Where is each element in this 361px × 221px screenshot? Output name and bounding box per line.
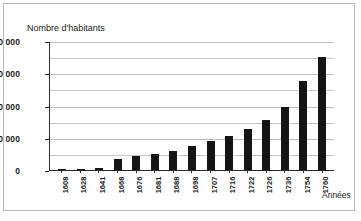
x-label-slot: 1726: [257, 173, 276, 211]
x-axis-tick-labels: 1608162816411668167616811688169817071716…: [49, 173, 334, 211]
x-axis-tick: [136, 169, 137, 173]
x-axis-tick-label: 1628: [79, 177, 88, 194]
x-axis-tick: [173, 169, 174, 173]
y-axis-tick-label: 60 000: [0, 69, 20, 79]
bar[interactable]: [188, 146, 196, 170]
x-axis-tick-label: 1688: [172, 177, 181, 194]
x-axis-tick-label: 1676: [135, 177, 144, 194]
y-axis-tick-label: 0: [0, 166, 20, 176]
x-axis-tick: [117, 169, 118, 173]
x-axis-title: Années: [322, 190, 351, 200]
x-label-slot: 1681: [145, 173, 164, 211]
x-axis-tick-label: 1681: [154, 177, 163, 194]
x-axis-tick-label: 1608: [61, 177, 70, 194]
bar[interactable]: [281, 107, 289, 170]
x-label-slot: 1641: [89, 173, 108, 211]
x-label-slot: 1736: [275, 173, 294, 211]
x-axis-tick-label: 1722: [247, 177, 256, 194]
chart-frame: Nombre d'habitants 020 00040 00060 00080…: [3, 3, 355, 211]
x-axis-tick-label: 1698: [191, 177, 200, 194]
y-axis-title: Nombre d'habitants: [27, 23, 105, 33]
x-label-slot: 1668: [108, 173, 127, 211]
x-label-slot: 1716: [219, 173, 238, 211]
x-axis-tick: [154, 169, 155, 173]
x-axis-tick: [303, 169, 304, 173]
bar-slot: [312, 42, 331, 170]
x-label-slot: 1722: [238, 173, 257, 211]
y-axis-tick-label: 20 000: [0, 134, 20, 144]
bar[interactable]: [169, 151, 177, 170]
bar-slot: [275, 42, 294, 170]
x-label-slot: 1754: [294, 173, 313, 211]
bar[interactable]: [207, 141, 215, 170]
bar-slot: [257, 42, 276, 170]
x-axis-tick: [61, 169, 62, 173]
x-axis-tick-label: 1716: [228, 177, 237, 194]
x-axis-tick-label: 1736: [284, 177, 293, 194]
x-label-slot: 1688: [164, 173, 183, 211]
bar[interactable]: [299, 81, 307, 170]
bar-slot: [90, 42, 109, 170]
x-axis-tick-label: 1641: [98, 177, 107, 194]
bar-series: [50, 42, 334, 170]
bar-slot: [146, 42, 165, 170]
x-label-slot: 1698: [182, 173, 201, 211]
y-axis-tick-label: 80 000: [0, 37, 20, 47]
bar-slot: [164, 42, 183, 170]
x-label-slot: 1707: [201, 173, 220, 211]
x-axis-tick: [191, 169, 192, 173]
bar-slot: [109, 42, 128, 170]
x-axis-tick: [247, 169, 248, 173]
bar-slot: [72, 42, 91, 170]
bar[interactable]: [132, 156, 140, 170]
bar[interactable]: [318, 57, 326, 170]
bar-slot: [238, 42, 257, 170]
x-label-slot: 1608: [52, 173, 71, 211]
x-axis-tick: [229, 169, 230, 173]
x-axis-tick: [98, 169, 99, 173]
bar-slot: [201, 42, 220, 170]
x-axis-tick: [80, 169, 81, 173]
x-axis-tick: [266, 169, 267, 173]
x-label-slot: 1676: [126, 173, 145, 211]
bar[interactable]: [262, 120, 270, 170]
bar-slot: [294, 42, 313, 170]
bar[interactable]: [244, 129, 252, 170]
x-axis-tick-label: 1726: [265, 177, 274, 194]
bar[interactable]: [151, 154, 159, 170]
bar[interactable]: [225, 136, 233, 170]
plot-area: [49, 42, 334, 171]
x-axis-tick: [322, 169, 323, 173]
y-axis-tick: [45, 171, 49, 172]
x-axis-tick-label: 1668: [117, 177, 126, 194]
x-axis-tick: [210, 169, 211, 173]
x-label-slot: 1628: [71, 173, 90, 211]
bar-slot: [183, 42, 202, 170]
x-axis-tick: [284, 169, 285, 173]
bar-slot: [127, 42, 146, 170]
x-axis-tick-label: 1707: [210, 177, 219, 194]
y-axis-tick-label: 40 000: [0, 102, 20, 112]
bar-slot: [220, 42, 239, 170]
bar-slot: [53, 42, 72, 170]
x-axis-tick-label: 1754: [303, 177, 312, 194]
